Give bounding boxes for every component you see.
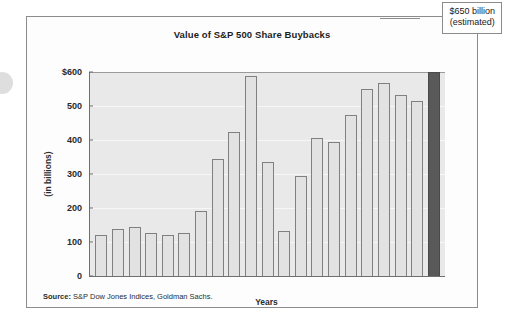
y-tick-mark bbox=[89, 208, 93, 209]
bar-slot bbox=[409, 72, 426, 276]
bar-slot bbox=[160, 72, 177, 276]
bar-slot bbox=[359, 72, 376, 276]
bar-slot bbox=[293, 72, 310, 276]
y-tick-mark bbox=[89, 140, 93, 141]
scan-artifact bbox=[0, 72, 13, 94]
bar bbox=[345, 115, 357, 277]
chart-figure: Value of S&P 500 Share Buybacks (in bill… bbox=[26, 16, 478, 308]
bar bbox=[278, 231, 290, 276]
y-tick-label: $600 bbox=[62, 67, 82, 77]
bar-slot bbox=[392, 72, 409, 276]
bar-slot bbox=[126, 72, 143, 276]
bar bbox=[328, 142, 340, 276]
bar bbox=[162, 235, 174, 276]
source-text: S&P Dow Jones Indices, Goldman Sachs. bbox=[73, 292, 213, 301]
bar-highlighted bbox=[428, 72, 440, 276]
source-note: Source: S&P Dow Jones Indices, Goldman S… bbox=[43, 292, 213, 301]
y-tick-label: 500 bbox=[67, 101, 82, 111]
bar bbox=[245, 76, 257, 276]
x-axis-ticks bbox=[89, 277, 444, 283]
bar bbox=[145, 233, 157, 276]
plot-area bbox=[89, 72, 445, 277]
bar-slot bbox=[259, 72, 276, 276]
bar bbox=[112, 229, 124, 276]
bar bbox=[195, 211, 207, 276]
callout-line-1: $650 billion bbox=[449, 6, 495, 17]
bar-slot bbox=[176, 72, 193, 276]
callout-leader-line bbox=[380, 18, 420, 19]
bar-slot bbox=[326, 72, 343, 276]
estimate-callout: $650 billion (estimated) bbox=[442, 2, 502, 34]
source-prefix: Source: bbox=[43, 292, 71, 301]
y-tick-mark bbox=[89, 174, 93, 175]
y-tick-label: 300 bbox=[67, 169, 82, 179]
bar-slot bbox=[276, 72, 293, 276]
bar-slot bbox=[93, 72, 110, 276]
bar-slot bbox=[226, 72, 243, 276]
y-tick-label: 0 bbox=[77, 271, 82, 281]
y-tick-mark bbox=[89, 72, 93, 73]
bar-slot bbox=[309, 72, 326, 276]
y-tick-label: 200 bbox=[67, 203, 82, 213]
chart-title: Value of S&P 500 Share Buybacks bbox=[27, 29, 477, 40]
bar bbox=[411, 101, 423, 276]
bar bbox=[228, 132, 240, 277]
bar-slot bbox=[143, 72, 160, 276]
bar bbox=[395, 95, 407, 276]
bar-slot bbox=[193, 72, 210, 276]
bar-series bbox=[90, 72, 445, 276]
y-tick-label: 400 bbox=[67, 135, 82, 145]
bar bbox=[129, 227, 141, 276]
bar bbox=[212, 159, 224, 276]
y-tick-mark bbox=[89, 276, 93, 277]
bar bbox=[378, 83, 390, 276]
bar-slot bbox=[426, 72, 443, 276]
y-axis-ticks: $6005004003002001000 bbox=[27, 72, 87, 276]
bar bbox=[361, 89, 373, 276]
bar-slot bbox=[243, 72, 260, 276]
callout-line-2: (estimated) bbox=[449, 17, 495, 28]
y-tick-mark bbox=[89, 242, 93, 243]
y-tick-mark bbox=[89, 106, 93, 107]
bar-slot bbox=[376, 72, 393, 276]
bar bbox=[262, 162, 274, 276]
y-tick-label: 100 bbox=[67, 237, 82, 247]
bar bbox=[178, 233, 190, 276]
bar bbox=[95, 235, 107, 276]
bar-slot bbox=[110, 72, 127, 276]
bar bbox=[311, 138, 323, 276]
bar-slot bbox=[342, 72, 359, 276]
bar bbox=[295, 176, 307, 276]
bar-slot bbox=[209, 72, 226, 276]
